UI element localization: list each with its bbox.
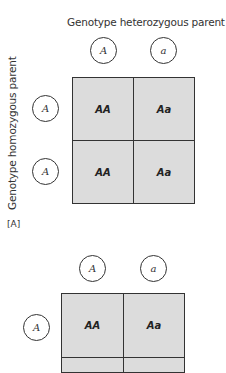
column-allele-circle: A <box>79 255 106 282</box>
row-title: Genotype homozygous parent <box>6 56 18 210</box>
allele-label: A <box>89 263 96 274</box>
genotype-cell: Aa <box>134 141 194 203</box>
genotype-cell: AA <box>62 294 124 358</box>
column-allele-circle: a <box>150 37 177 64</box>
genotype-cell: AA <box>73 78 134 141</box>
row-allele-circle: A <box>23 314 50 341</box>
allele-label: a <box>151 263 157 274</box>
genotype-cell: Aa <box>134 78 194 141</box>
genotype-cell: Aa <box>124 294 184 358</box>
allele-label: A <box>100 45 107 56</box>
punnett-square-b: AA Aa <box>61 293 185 373</box>
panel-label: [A] <box>7 219 20 229</box>
punnett-square-a: AA Aa AA Aa <box>72 77 195 204</box>
allele-label: a <box>161 45 167 56</box>
row-allele-circle: A <box>32 158 59 185</box>
genotype-cell <box>124 358 184 372</box>
allele-label: A <box>33 322 40 333</box>
column-title: Genotype heterozygous parent <box>67 16 225 28</box>
column-allele-circle: A <box>90 37 117 64</box>
genotype-cell: AA <box>73 141 134 203</box>
genotype-cell <box>62 358 124 372</box>
allele-label: A <box>42 166 49 177</box>
column-allele-circle: a <box>140 255 167 282</box>
allele-label: A <box>42 103 49 114</box>
row-allele-circle: A <box>32 95 59 122</box>
